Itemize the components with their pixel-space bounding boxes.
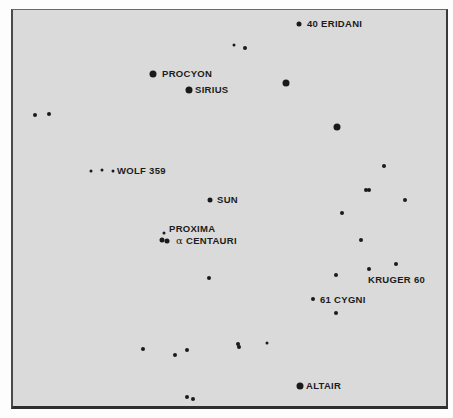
star-dot	[237, 345, 241, 349]
star-kruger-60	[367, 267, 371, 271]
star-dot	[359, 238, 363, 242]
star-label-kruger-60: KRUGER 60	[368, 275, 425, 285]
star-dot	[185, 395, 189, 399]
star-label-sun: SUN	[217, 195, 238, 205]
star-name: SIRIUS	[195, 84, 228, 95]
star-name: KRUGER 60	[368, 274, 425, 285]
star-name: 40 ERIDANI	[307, 18, 362, 29]
star-wolf-359	[112, 170, 115, 173]
star-61-cygni	[311, 297, 315, 301]
star-name: CENTAURI	[186, 235, 237, 246]
star-procyon	[150, 71, 157, 78]
star-name: 61 CYGNI	[320, 294, 366, 305]
star-dot	[266, 342, 269, 345]
star-map-frame	[11, 9, 448, 409]
star-label-61-cygni: 61 CYGNI	[320, 295, 366, 305]
star-altair	[297, 383, 304, 390]
star-dot	[403, 198, 407, 202]
star-sun	[208, 198, 213, 203]
star-label-proxima: PROXIMA	[169, 224, 215, 234]
star-name: SUN	[217, 194, 238, 205]
star-name: ALTAIR	[306, 380, 341, 391]
star-dot	[191, 397, 195, 401]
star-dot	[394, 262, 398, 266]
star-dot	[101, 169, 104, 172]
star-dot	[141, 347, 145, 351]
star-dot	[33, 113, 37, 117]
star-sirius	[186, 87, 193, 94]
star-dot	[334, 273, 338, 277]
star-label-alpha-centauri: αCENTAURI	[176, 236, 237, 246]
star-dot	[334, 311, 338, 315]
star-name: WOLF 359	[117, 165, 166, 176]
star-40-eridani	[297, 22, 302, 27]
star-label-sirius: SIRIUS	[195, 85, 228, 95]
star-alpha-centauri	[165, 239, 170, 244]
star-dot	[243, 46, 247, 50]
star-dot	[47, 112, 51, 116]
star-label-altair: ALTAIR	[306, 381, 341, 391]
star-name: PROXIMA	[169, 223, 215, 234]
star-dot	[367, 188, 371, 192]
star-dot	[173, 353, 177, 357]
star-dot	[207, 276, 211, 280]
alpha-symbol: α	[176, 235, 183, 246]
star-dot	[340, 211, 344, 215]
star-dot	[283, 80, 290, 87]
star-dot	[382, 164, 386, 168]
star-dot	[185, 348, 189, 352]
star-dot	[90, 170, 93, 173]
star-label-40-eridani: 40 ERIDANI	[307, 19, 362, 29]
star-label-wolf-359: WOLF 359	[117, 166, 166, 176]
star-proxima	[163, 232, 166, 235]
star-dot	[334, 124, 341, 131]
star-dot	[233, 44, 236, 47]
star-label-procyon: PROCYON	[162, 69, 212, 79]
star-name: PROCYON	[162, 68, 212, 79]
